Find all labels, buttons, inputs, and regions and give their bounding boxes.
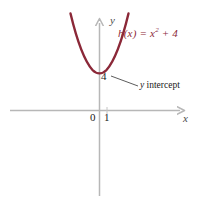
graph-figure: y x h(x) = x2 + 4 4 0 1 y intercept (0, 0, 200, 203)
y-intercept-value-label: 4 (101, 71, 107, 82)
origin-label: 0 (90, 112, 96, 123)
x-unit-tick-label: 1 (104, 112, 110, 123)
annotation-words: intercept (144, 80, 180, 90)
equation-tail: + 4 (159, 27, 178, 39)
annotation-leader-line (111, 76, 138, 86)
y-intercept-annotation: y intercept (140, 81, 180, 91)
equation-main: h(x) = x (118, 27, 155, 39)
function-equation-label: h(x) = x2 + 4 (118, 28, 178, 39)
x-axis-label: x (183, 113, 188, 124)
y-axis-label: y (110, 15, 115, 26)
